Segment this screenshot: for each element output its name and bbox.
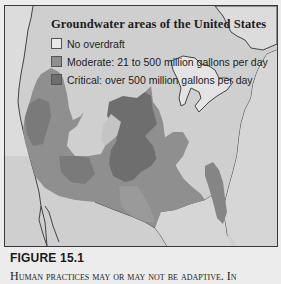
legend-item-no-overdraft: No overdraft: [51, 36, 268, 51]
legend-item-critical: Critical: over 500 million gallons per d…: [51, 72, 268, 87]
legend-label: Moderate: 21 to 500 million gallons per …: [67, 56, 268, 68]
caption-text: Human practices may or may not be adapti…: [10, 269, 275, 284]
legend-label: No overdraft: [67, 38, 125, 50]
map-title: Groundwater areas of the United States: [51, 17, 268, 32]
map-legend: Groundwater areas of the United States N…: [51, 17, 268, 90]
groundwater-map: Groundwater areas of the United States N…: [4, 5, 278, 247]
no-overdraft-swatch: [51, 38, 62, 49]
figure-caption: FIGURE 15.1 Human practices may or may n…: [10, 251, 275, 284]
moderate-swatch: [51, 56, 62, 67]
legend-label: Critical: over 500 million gallons per d…: [67, 74, 253, 86]
figure-label: FIGURE 15.1: [10, 251, 275, 265]
critical-swatch: [51, 74, 62, 85]
legend-item-moderate: Moderate: 21 to 500 million gallons per …: [51, 54, 268, 69]
